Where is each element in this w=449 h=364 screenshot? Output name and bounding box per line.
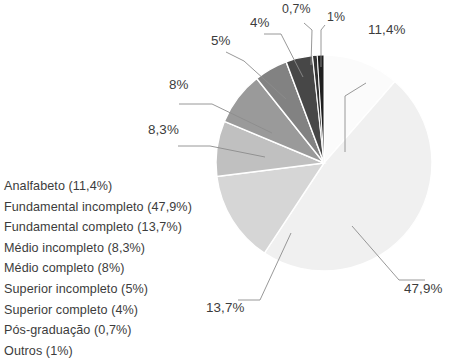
data-label-pos-graduacao: 0,7% — [282, 2, 311, 16]
legend-item: Fundamental incompleto (47,9%) — [4, 197, 216, 218]
legend-item: Fundamental completo (13,7%) — [4, 217, 216, 238]
data-label-medio-completo: 8% — [169, 77, 189, 92]
pie-slices — [216, 55, 432, 271]
legend-item: Pós-graduação (0,7%) — [4, 320, 216, 341]
legend: Analfabeto (11,4%) Fundamental incomplet… — [4, 176, 216, 361]
data-label-superior-completo: 4% — [250, 15, 270, 30]
data-label-medio-incompleto: 8,3% — [148, 122, 179, 137]
legend-item: Analfabeto (11,4%) — [4, 176, 216, 197]
legend-item: Superior completo (4%) — [4, 300, 216, 321]
legend-item: Superior incompleto (5%) — [4, 279, 216, 300]
data-label-analfabeto: 11,4% — [368, 22, 405, 37]
data-label-fundamental-incompleto: 47,9% — [404, 281, 442, 296]
pie-chart-figure: 11,4% 47,9% 13,7% 8,3% 8% 5% 4% 0,7% 1% … — [0, 0, 449, 364]
legend-item: Médio incompleto (8,3%) — [4, 238, 216, 259]
legend-item: Outros (1%) — [4, 341, 216, 362]
data-label-outros: 1% — [327, 10, 345, 24]
legend-item: Médio completo (8%) — [4, 258, 216, 279]
data-label-superior-incompleto: 5% — [211, 33, 231, 48]
